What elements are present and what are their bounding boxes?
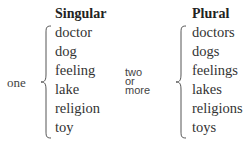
plural-column: Plural two or more doctors dogs feelings… bbox=[0, 0, 244, 146]
plural-heading: Plural bbox=[192, 7, 229, 21]
plural-quantity-line: more bbox=[125, 86, 150, 95]
plural-word: lakes bbox=[192, 82, 222, 97]
plural-word: toys bbox=[192, 120, 216, 135]
plural-word: dogs bbox=[192, 44, 219, 59]
right-brace-icon bbox=[175, 24, 187, 140]
plural-word: doctors bbox=[192, 25, 235, 40]
plural-word: religions bbox=[192, 101, 243, 116]
plural-word: feelings bbox=[192, 63, 238, 78]
